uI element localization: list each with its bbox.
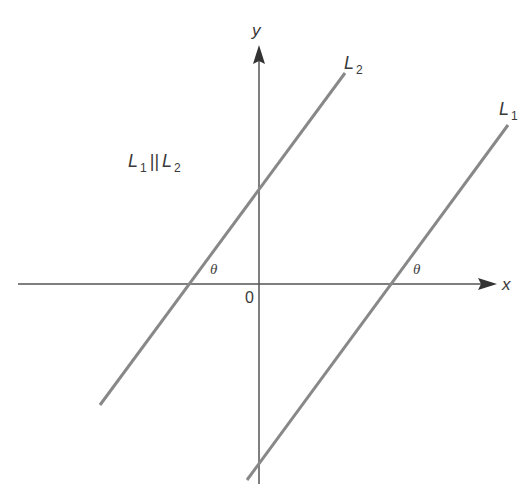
angle-theta-L1: θ [413, 262, 420, 277]
line-L2 [100, 73, 345, 405]
label-L2: L2 [344, 54, 363, 72]
diagram-canvas: y x 0 L2 L1 L1||L2 θ θ [0, 0, 528, 491]
parallel-symbol: || [150, 151, 159, 171]
parallel-relation: L1||L2 [128, 152, 181, 170]
relation-right-sub: 2 [174, 161, 181, 175]
relation-left: L [128, 151, 138, 171]
line-L1 [247, 125, 508, 480]
y-axis-label: y [252, 22, 261, 39]
label-L2-subscript: 2 [356, 63, 363, 77]
x-axis-label: x [502, 276, 511, 293]
origin-label: 0 [245, 290, 254, 306]
label-L2-name: L [344, 53, 354, 73]
relation-left-sub: 1 [140, 161, 147, 175]
label-L1-name: L [499, 99, 509, 119]
relation-right: L [162, 151, 172, 171]
label-L1-subscript: 1 [511, 109, 518, 123]
label-L1: L1 [499, 100, 518, 118]
diagram-svg [0, 0, 528, 491]
angle-theta-L2: θ [210, 262, 217, 277]
